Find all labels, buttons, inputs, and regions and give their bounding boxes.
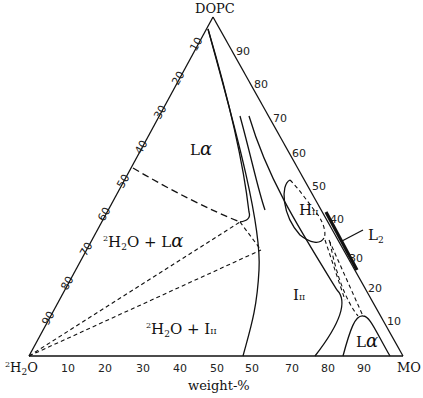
tick-label: 20 <box>98 362 112 375</box>
tie-line <box>325 240 345 300</box>
tick-label: 40 <box>132 138 150 157</box>
tick-label: 20 <box>368 282 382 295</box>
tick-label: 80 <box>254 78 268 91</box>
tick-label: 10 <box>61 362 75 375</box>
tick-label: 20 <box>169 69 187 88</box>
ternary-phase-diagram: DOPC 2H2O MO 10 20 30 40 50 50 70 80 90 … <box>0 0 423 398</box>
tie-line <box>29 250 261 356</box>
region-label-water-i2: 2H2O + III <box>146 320 217 339</box>
tick-label: 80 <box>321 362 335 375</box>
tick-label: 60 <box>292 147 306 160</box>
vertex-label-mo: MO <box>397 360 421 375</box>
l2-pointer <box>342 230 363 241</box>
tick-label: 90 <box>236 45 250 58</box>
region-label-lalpha-bottom: Lα <box>356 330 378 351</box>
tick-label: 40 <box>173 362 187 375</box>
bottom-axis-ticks: 10 20 30 40 50 50 70 80 90 <box>61 362 371 375</box>
tick-label: 30 <box>151 103 169 122</box>
region-label-h2: HII <box>299 201 318 219</box>
phase-boundaries <box>208 29 390 356</box>
region-label-l2: L2 <box>368 226 384 245</box>
vertex-label-water: 2H2O <box>5 360 38 377</box>
right-axis-ticks: 90 80 70 60 50 40 30 20 10 <box>236 45 401 328</box>
tick-label: 30 <box>136 362 150 375</box>
tick-label: 70 <box>285 362 299 375</box>
axis-label-weight: weight-% <box>188 378 250 393</box>
boundary-lalpha-right <box>208 29 259 356</box>
tick-label: 80 <box>58 274 76 293</box>
tick-label: 10 <box>187 35 205 54</box>
tick-label: 50 <box>312 180 326 193</box>
tie-line-lalpha-water <box>133 168 240 222</box>
triangle-outline <box>29 17 403 356</box>
tick-label: 90 <box>39 309 57 328</box>
left-axis-ticks: 10 20 30 40 50 60 70 80 90 <box>39 35 205 328</box>
tick-label: 90 <box>357 362 371 375</box>
tick-label: 50 <box>114 172 132 191</box>
vertex-label-dopc: DOPC <box>195 1 235 16</box>
tick-label: 70 <box>273 112 287 125</box>
tick-label: 10 <box>387 315 401 328</box>
region-label-i2: III <box>293 286 305 304</box>
tick-label: 50 <box>210 362 224 375</box>
region-label-water-lalpha: 2H2O + Lα <box>103 230 183 252</box>
tick-label: 50 <box>245 362 259 375</box>
tick-label: 70 <box>77 240 95 259</box>
region-label-lalpha-top: Lα <box>190 138 212 159</box>
tick-label: 60 <box>95 205 113 224</box>
